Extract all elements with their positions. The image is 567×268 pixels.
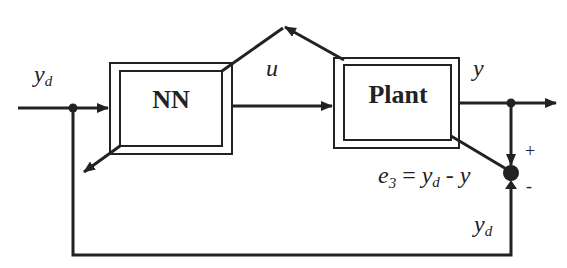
feedback-arrowhead — [505, 180, 517, 189]
nn-block: NN — [110, 63, 232, 154]
minus-sign: - — [526, 176, 532, 196]
summing-junction — [503, 165, 519, 181]
nn-control-block-diagram: NN Plant yd u y + - e3 = yd - y yd — [0, 0, 567, 268]
nn-label: NN — [152, 85, 190, 114]
input-yd-label: yd — [32, 61, 53, 89]
output-y-label: y — [471, 55, 484, 81]
feedback-yd-label: yd — [472, 211, 493, 239]
plant-jacobian-arrow — [285, 27, 344, 60]
control-u-label: u — [266, 55, 278, 81]
plant-block: Plant — [334, 58, 459, 148]
plant-label: Plant — [368, 80, 428, 109]
nn-tuning-arrow — [84, 146, 120, 172]
error-equation: e3 = yd - y — [378, 162, 471, 191]
plus-sign: + — [525, 141, 535, 161]
